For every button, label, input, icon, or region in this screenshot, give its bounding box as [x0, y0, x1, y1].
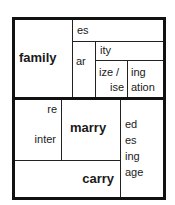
cell-family: family	[15, 20, 72, 97]
cell-carry: carry	[15, 161, 120, 197]
base-word-family: family	[19, 51, 57, 65]
cell-ar: ar	[73, 42, 95, 97]
cell-marry: marry	[62, 100, 120, 160]
suffix-ise: ise	[110, 81, 124, 93]
suffix-es: es	[77, 24, 89, 36]
suffix-ity: ity	[100, 44, 111, 56]
base-word-carry: carry	[82, 172, 114, 186]
suffix-ed: ed	[125, 118, 137, 130]
suffix-age: age	[125, 166, 143, 178]
cell-ing-ation: ing ation	[128, 61, 163, 97]
cell-bottom-suffixes: ed es ing age	[121, 100, 163, 197]
cell-prefixes: re inter	[15, 100, 61, 160]
cell-es: es	[73, 20, 163, 41]
word-matrix-frame: family es ar ity ize / ise ing ation re …	[12, 17, 166, 200]
cell-ity: ity	[96, 42, 163, 60]
suffix-es-bottom: es	[125, 134, 137, 146]
prefix-re: re	[47, 103, 57, 115]
suffix-ation: ation	[131, 81, 155, 93]
cell-ize-ise: ize / ise	[96, 61, 127, 97]
suffix-ize: ize /	[99, 66, 119, 78]
base-word-marry: marry	[70, 121, 106, 135]
prefix-inter: inter	[35, 133, 56, 145]
suffix-ing-top: ing	[131, 66, 146, 78]
suffix-ar: ar	[76, 55, 86, 67]
suffix-ing-bottom: ing	[125, 150, 140, 162]
